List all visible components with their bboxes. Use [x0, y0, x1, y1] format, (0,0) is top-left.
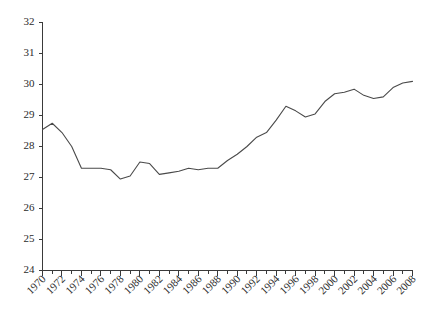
x-tick-label: 2004: [355, 272, 379, 296]
x-tick-label: 1974: [63, 272, 87, 296]
x-tick-label: 1984: [160, 272, 184, 296]
x-tick-label: 1996: [277, 272, 301, 296]
x-tick-label: 2006: [374, 272, 398, 296]
line-chart: 242526272829303132 197019721974197619781…: [0, 0, 426, 317]
y-tick-label: 31: [24, 46, 35, 58]
y-axis-tick-labels: 242526272829303132: [24, 15, 36, 275]
y-tick-label: 28: [24, 139, 36, 151]
x-axis-tick-labels: 1970197219741976197819801982198419861988…: [24, 272, 418, 296]
x-tick-label: 1978: [102, 272, 126, 296]
x-tick-label: 1970: [24, 272, 48, 296]
y-tick-label: 32: [24, 15, 35, 27]
y-axis-ticks: [39, 23, 43, 271]
x-tick-label: 1998: [297, 272, 321, 296]
x-tick-label: 1988: [199, 272, 223, 296]
x-tick-label: 1976: [82, 272, 106, 296]
x-tick-label: 1982: [141, 272, 165, 296]
x-tick-label: 1986: [180, 272, 204, 296]
y-tick-label: 27: [24, 170, 36, 182]
y-tick-label: 30: [24, 77, 36, 89]
x-tick-label: 1992: [238, 272, 262, 296]
data-series-line: [43, 81, 413, 179]
x-tick-label: 2000: [316, 272, 340, 296]
y-tick-label: 25: [24, 232, 36, 244]
x-tick-label: 1980: [121, 272, 145, 296]
x-tick-label: 1990: [219, 272, 243, 296]
y-tick-label: 24: [24, 263, 36, 275]
x-tick-label: 2008: [394, 272, 418, 296]
chart-container: 242526272829303132 197019721974197619781…: [0, 0, 426, 317]
y-tick-label: 29: [24, 108, 36, 120]
x-tick-label: 1972: [43, 272, 67, 296]
x-tick-label: 2002: [335, 272, 359, 296]
x-tick-label: 1994: [258, 272, 282, 296]
y-tick-label: 26: [24, 201, 36, 213]
